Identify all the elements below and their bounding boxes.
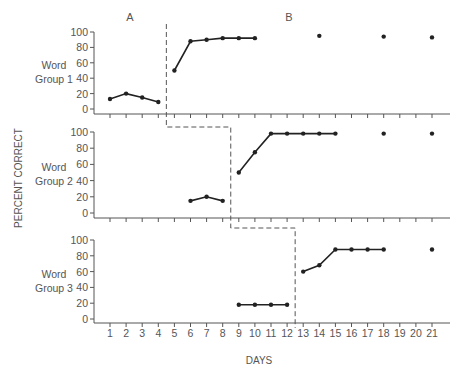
phase-b-label: B (285, 11, 292, 23)
phase-a-label: A (126, 11, 134, 23)
baseline-point (237, 303, 241, 307)
x-tick-label: 10 (249, 327, 261, 339)
treatment-point (253, 150, 257, 154)
treatment-line (303, 249, 384, 271)
treatment-point (349, 247, 353, 251)
treatment-point (253, 36, 257, 40)
baseline-point (221, 199, 225, 203)
baseline-point (140, 95, 144, 99)
x-tick-label: 11 (266, 327, 277, 339)
panel-word-group-3: 020406080100WordGroup 3 (35, 234, 450, 327)
treatment-point (237, 36, 241, 40)
treatment-point (317, 263, 321, 267)
y-tick-label: 100 (70, 234, 88, 246)
treatment-line (174, 38, 255, 70)
x-axis-label: DAYS (246, 355, 273, 366)
treatment-point (172, 68, 176, 72)
baseline-point (108, 97, 112, 101)
x-tick-label: 3 (139, 327, 145, 339)
x-tick-label: 8 (220, 327, 226, 339)
y-tick-label: 60 (76, 158, 88, 170)
y-tick-label: 0 (82, 313, 88, 325)
treatment-point (382, 247, 386, 251)
treatment-point (333, 131, 337, 135)
panel-label: Word (42, 161, 67, 173)
y-tick-label: 60 (76, 266, 88, 278)
y-tick-label: 100 (70, 126, 88, 138)
treatment-point (317, 131, 321, 135)
x-tick-label: 4 (155, 327, 161, 339)
x-tick-label: 14 (313, 327, 325, 339)
x-tick-label: 17 (362, 327, 374, 339)
y-tick-label: 80 (76, 250, 88, 262)
panel-word-group-2: 020406080100WordGroup 2 (35, 126, 450, 222)
followup-point (430, 35, 434, 39)
followup-point (382, 34, 386, 38)
panel-label: Word (42, 59, 67, 71)
x-tick-label: 7 (204, 327, 210, 339)
y-tick-label: 80 (76, 41, 88, 53)
x-tick-label: 6 (188, 327, 194, 339)
y-axis-label: PERCENT CORRECT (13, 128, 24, 228)
followup-point (430, 247, 434, 251)
y-tick-label: 80 (76, 142, 88, 154)
baseline-point (156, 100, 160, 104)
y-tick-label: 40 (76, 175, 88, 187)
treatment-point (301, 131, 305, 135)
baseline-point (204, 195, 208, 199)
treatment-point (221, 36, 225, 40)
treatment-point (333, 247, 337, 251)
phase-change-lines (166, 24, 295, 328)
y-tick-label: 0 (82, 207, 88, 219)
followup-point (317, 34, 321, 38)
x-tick-label: 19 (394, 327, 406, 339)
x-tick-label: 13 (297, 327, 309, 339)
x-tick-label: 12 (281, 327, 293, 339)
treatment-point (188, 39, 192, 43)
baseline-point (269, 303, 273, 307)
followup-point (430, 131, 434, 135)
treatment-point (301, 269, 305, 273)
y-tick-label: 60 (76, 57, 88, 69)
x-tick-label: 18 (378, 327, 390, 339)
panels: 020406080100WordGroup 1020406080100WordG… (35, 26, 450, 339)
panel-label: Group 3 (35, 282, 73, 294)
x-tick-label: 20 (410, 327, 422, 339)
treatment-point (204, 38, 208, 42)
baseline-point (253, 303, 257, 307)
treatment-point (237, 170, 241, 174)
y-tick-label: 20 (76, 191, 88, 203)
y-tick-label: 40 (76, 72, 88, 84)
panel-label: Group 1 (35, 73, 73, 85)
x-tick-label: 1 (107, 327, 113, 339)
y-tick-label: 0 (82, 103, 88, 115)
panel-word-group-1: 020406080100WordGroup 1 (35, 26, 450, 118)
x-tick-label: 9 (236, 327, 242, 339)
x-tick-label: 21 (426, 327, 438, 339)
baseline-line (110, 94, 158, 102)
treatment-point (365, 247, 369, 251)
x-tick-label: 16 (346, 327, 358, 339)
panel-label: Group 2 (35, 175, 73, 187)
treatment-point (269, 131, 273, 135)
y-tick-label: 20 (76, 297, 88, 309)
treatment-point (285, 131, 289, 135)
panel-label: Word (42, 268, 67, 280)
y-tick-label: 20 (76, 88, 88, 100)
baseline-point (285, 303, 289, 307)
y-tick-label: 100 (70, 26, 88, 38)
x-tick-label: 15 (330, 327, 342, 339)
baseline-point (124, 91, 128, 95)
followup-point (382, 131, 386, 135)
y-tick-label: 40 (76, 281, 88, 293)
phase-change-line (166, 24, 295, 328)
x-tick-label: 5 (171, 327, 177, 339)
x-tick-label: 2 (123, 327, 129, 339)
baseline-point (188, 199, 192, 203)
